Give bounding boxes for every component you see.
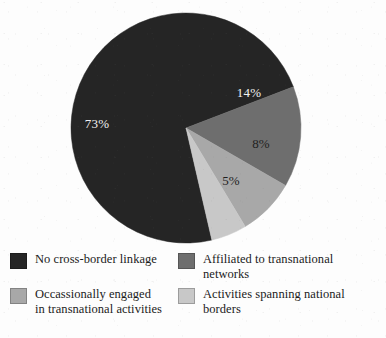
legend-item-occassionally-engaged: Occassionally engaged in transnational a… — [10, 287, 178, 322]
legend-swatch-activities-spanning-national-borders — [178, 288, 195, 304]
pie-slice-label-14-percent: 14% — [237, 85, 261, 100]
legend-label-affiliated-to-transnational-networks: Affiliated to transnational networks — [203, 252, 380, 282]
legend-label-no-cross-border-linkage: No cross-border linkage — [35, 252, 157, 267]
pie-chart-plot-area: 73%14%8%5% — [0, 0, 386, 250]
pie-chart-figure: 73%14%8%5% No cross-border linkage Affil… — [0, 0, 386, 338]
pie-slice-label-8-percent: 8% — [252, 136, 270, 151]
legend-item-no-cross-border-linkage: No cross-border linkage — [10, 252, 178, 287]
pie-slice-label-5-percent: 5% — [222, 173, 240, 188]
chart-legend: No cross-border linkage Affiliated to tr… — [0, 248, 386, 338]
legend-item-activities-spanning-national-borders: Activities spanning national borders — [178, 287, 380, 322]
legend-item-affiliated-to-transnational-networks: Affiliated to transnational networks — [178, 252, 380, 287]
legend-swatch-affiliated-to-transnational-networks — [178, 253, 195, 269]
legend-label-occassionally-engaged: Occassionally engaged in transnational a… — [35, 287, 162, 317]
pie-chart-svg: 73%14%8%5% — [0, 0, 386, 250]
legend-swatch-occassionally-engaged — [10, 288, 27, 304]
pie-slice-label-73-percent: 73% — [85, 116, 109, 131]
legend-label-activities-spanning-national-borders: Activities spanning national borders — [203, 287, 380, 317]
legend-swatch-no-cross-border-linkage — [10, 253, 27, 269]
